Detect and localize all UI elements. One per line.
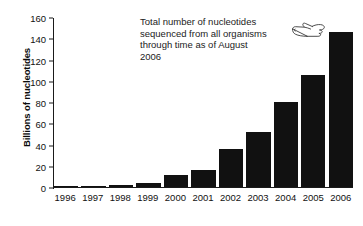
y-axis-tick-mark bbox=[49, 188, 53, 189]
y-axis-tick-label: 100 bbox=[30, 76, 49, 87]
bar-2004 bbox=[274, 102, 298, 187]
y-axis-tick: 140 bbox=[30, 34, 53, 45]
y-axis-tick-label: 20 bbox=[35, 161, 49, 172]
x-axis-tick-labels: 1996199719981999200020012002200320042005… bbox=[53, 192, 353, 203]
bar-slot bbox=[301, 17, 325, 187]
bar-2006 bbox=[329, 32, 353, 187]
y-axis-tick-label: 120 bbox=[30, 55, 49, 66]
x-axis-tick-label: 2006 bbox=[329, 192, 353, 203]
x-axis-tick-label: 1997 bbox=[81, 192, 105, 203]
y-axis-tick: 160 bbox=[30, 13, 53, 24]
bar-1996 bbox=[54, 186, 78, 187]
x-axis-tick-label: 2004 bbox=[274, 192, 298, 203]
x-axis-tick-label: 1998 bbox=[108, 192, 132, 203]
y-axis-tick-mark bbox=[49, 18, 53, 19]
y-axis-tick-label: 60 bbox=[35, 119, 49, 130]
y-axis-tick-label: 140 bbox=[30, 34, 49, 45]
bar-2003 bbox=[246, 132, 270, 187]
bar-1998 bbox=[109, 185, 133, 187]
y-axis-tick: 80 bbox=[35, 98, 53, 109]
y-axis-tick-mark bbox=[49, 166, 53, 167]
y-axis-tick-label: 40 bbox=[35, 140, 49, 151]
y-axis-tick: 20 bbox=[35, 161, 53, 172]
x-axis-tick-label: 2000 bbox=[163, 192, 187, 203]
bar-slot bbox=[81, 17, 105, 187]
annotation-line-4: 2006 bbox=[140, 51, 290, 63]
bar-slot bbox=[329, 17, 353, 187]
y-axis-tick-mark bbox=[49, 39, 53, 40]
bar-slot bbox=[54, 17, 78, 187]
pointing-hand-icon bbox=[288, 17, 328, 41]
nucleotides-bar-chart: Billions of nucleotides 0204060801001201… bbox=[0, 0, 363, 226]
x-axis-tick-label: 2002 bbox=[218, 192, 242, 203]
y-axis-tick-label: 160 bbox=[30, 13, 49, 24]
bar-2001 bbox=[191, 170, 215, 187]
y-axis-title: Billions of nucleotides bbox=[21, 28, 32, 168]
x-axis-tick-label: 1996 bbox=[53, 192, 77, 203]
y-axis-tick-mark bbox=[49, 60, 53, 61]
chart-annotation: Total number of nucleotides sequenced fr… bbox=[140, 16, 290, 62]
annotation-line-2: sequenced from all organisms bbox=[140, 28, 290, 40]
bar-1997 bbox=[81, 186, 105, 187]
y-axis-tick-label: 80 bbox=[35, 98, 49, 109]
bar-slot bbox=[109, 17, 133, 187]
x-axis-tick-label: 2005 bbox=[301, 192, 325, 203]
bar-2005 bbox=[301, 75, 325, 187]
x-axis-tick-label: 2003 bbox=[246, 192, 270, 203]
x-axis-tick-label: 2001 bbox=[191, 192, 215, 203]
x-axis-line bbox=[53, 187, 353, 188]
y-axis-tick-mark bbox=[49, 145, 53, 146]
y-axis-tick: 100 bbox=[30, 76, 53, 87]
y-axis-tick-mark bbox=[49, 124, 53, 125]
y-axis-tick: 0 bbox=[41, 183, 53, 194]
y-axis-tick-label: 0 bbox=[41, 183, 49, 194]
y-axis-tick: 60 bbox=[35, 119, 53, 130]
y-axis-tick-mark bbox=[49, 103, 53, 104]
annotation-line-3: through time as of August bbox=[140, 39, 290, 51]
y-axis-tick: 120 bbox=[30, 55, 53, 66]
bar-2002 bbox=[219, 149, 243, 187]
annotation-line-1: Total number of nucleotides bbox=[140, 16, 290, 28]
bar-2000 bbox=[164, 175, 188, 187]
bar-1999 bbox=[136, 183, 160, 187]
y-axis-tick: 40 bbox=[35, 140, 53, 151]
x-axis-tick-label: 1999 bbox=[136, 192, 160, 203]
y-axis-tick-mark bbox=[49, 81, 53, 82]
